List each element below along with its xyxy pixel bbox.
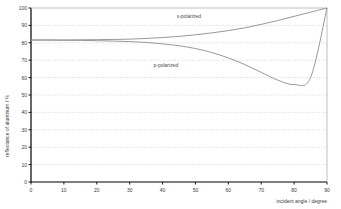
x-tick-label: 80 (291, 187, 297, 193)
y-axis-title: reflectance of aluminum / % (4, 95, 10, 157)
x-tick-label: 50 (193, 187, 199, 193)
series-annotation-p-polarized: p-polarized (153, 62, 178, 68)
x-tick-label: 90 (324, 187, 330, 193)
y-tick-label: 90 (21, 22, 27, 28)
y-tick-label: 70 (21, 57, 27, 63)
x-tick-label: 40 (160, 187, 166, 193)
y-tick-label: 10 (21, 162, 27, 168)
y-tick-label: 80 (21, 40, 27, 46)
y-tick-label: 60 (21, 75, 27, 81)
x-tick-label: 60 (226, 187, 232, 193)
x-tick-label: 10 (61, 187, 67, 193)
y-tick-label: 0 (24, 179, 27, 185)
y-tick-label: 40 (21, 109, 27, 115)
series-annotation-s-polarized: s-polarized (177, 13, 202, 19)
plot-area-background (31, 8, 327, 182)
x-tick-label: 70 (258, 187, 264, 193)
x-tick-label: 30 (127, 187, 133, 193)
x-tick-label: 0 (30, 187, 33, 193)
chart-canvas: 0102030405060708090100 01020304050607080… (0, 0, 341, 209)
reflectance-chart: 0102030405060708090100 01020304050607080… (0, 0, 341, 209)
x-axis-tick-labels: 0102030405060708090 (30, 187, 330, 193)
y-tick-label: 20 (21, 144, 27, 150)
x-axis-title: incident angle / degree (276, 198, 327, 204)
y-tick-label: 30 (21, 127, 27, 133)
y-tick-label: 50 (21, 92, 27, 98)
y-axis-tick-labels: 0102030405060708090100 (19, 5, 28, 185)
x-tick-label: 20 (94, 187, 100, 193)
y-tick-label: 100 (19, 5, 28, 11)
